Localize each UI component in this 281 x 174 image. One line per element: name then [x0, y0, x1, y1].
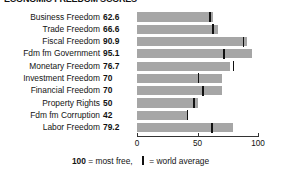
footnote-max-value: 100 — [72, 156, 86, 166]
chart-row: Financial Freedom 70 — [0, 85, 281, 97]
footnote-world-average-text: = world average — [149, 156, 209, 166]
bar-track — [137, 49, 281, 58]
category-label: Monetary Freedom — [29, 61, 100, 72]
value-bar — [137, 98, 198, 107]
value-bar — [137, 86, 222, 95]
world-average-marker — [198, 73, 200, 83]
chart-title: ECONOMIC FREEDOM SCORES — [4, 0, 244, 3]
value-bar — [137, 49, 252, 58]
chart-row: Property Rights 50 — [0, 97, 281, 109]
world-average-marker — [243, 37, 245, 47]
bar-track — [137, 74, 281, 83]
x-axis-tick — [258, 133, 259, 137]
value-label: 42 — [103, 110, 112, 121]
value-label: 50 — [103, 98, 112, 109]
value-bar — [137, 25, 218, 34]
value-bar — [137, 74, 222, 83]
value-label: 90.9 — [103, 36, 119, 47]
value-label: 95.1 — [103, 48, 119, 59]
economic-freedom-bar-chart: ECONOMIC FREEDOM SCORES Business Freedom… — [0, 0, 281, 174]
category-label: Business Freedom — [30, 12, 100, 23]
value-label: 70 — [103, 73, 112, 84]
world-average-marker — [202, 86, 204, 96]
value-label: 66.6 — [103, 24, 119, 35]
category-label: Fdm fm Corruption — [30, 110, 100, 121]
chart-row: Fdm fm Government 95.1 — [0, 48, 281, 60]
category-label: Trade Freedom — [43, 24, 100, 35]
category-label: Financial Freedom — [31, 85, 100, 96]
world-average-marker — [212, 24, 214, 34]
value-bar — [137, 111, 188, 120]
chart-row: Trade Freedom 66.6 — [0, 23, 281, 35]
world-average-legend-icon — [142, 156, 144, 165]
x-axis-tick — [198, 133, 199, 137]
world-average-marker — [211, 123, 213, 133]
chart-row: Monetary Freedom 76.7 — [0, 60, 281, 72]
value-label: 76.7 — [103, 61, 119, 72]
x-axis-tick-label: 50 — [193, 139, 202, 149]
world-average-marker — [187, 110, 189, 120]
chart-legend-footnote: 100 = most free, = world average — [0, 155, 281, 167]
category-label: Property Rights — [42, 98, 100, 109]
chart-row: Business Freedom 62.6 — [0, 11, 281, 23]
world-average-marker — [209, 12, 211, 22]
chart-row: Investment Freedom 70 — [0, 72, 281, 84]
x-axis-tick-label: 100 — [251, 139, 265, 149]
value-bar — [137, 12, 213, 21]
bar-track — [137, 86, 281, 95]
world-average-marker — [223, 49, 225, 59]
world-average-marker — [193, 98, 195, 108]
chart-row: Fiscal Freedom 90.9 — [0, 36, 281, 48]
category-label: Labor Freedom — [43, 122, 100, 133]
value-label: 79.2 — [103, 122, 119, 133]
value-bar — [137, 62, 230, 71]
bar-track — [137, 98, 281, 107]
chart-row: Fdm fm Corruption 42 — [0, 109, 281, 121]
x-axis-tick — [137, 133, 138, 137]
bar-track — [137, 123, 281, 132]
x-axis-tick-label: 0 — [135, 139, 140, 149]
bar-track — [137, 12, 281, 21]
world-average-marker — [233, 61, 235, 71]
bar-track — [137, 37, 281, 46]
footnote-most-free-text: = most free, — [88, 156, 132, 166]
value-label: 62.6 — [103, 12, 119, 23]
category-label: Fiscal Freedom — [42, 36, 100, 47]
chart-rows: Business Freedom 62.6 Trade Freedom 66.6… — [0, 11, 281, 134]
chart-row: Labor Freedom 79.2 — [0, 122, 281, 134]
category-label: Fdm fm Government — [23, 48, 100, 59]
category-label: Investment Freedom — [23, 73, 100, 84]
bar-track — [137, 25, 281, 34]
value-bar — [137, 123, 233, 132]
bar-track — [137, 62, 281, 71]
bar-track — [137, 111, 281, 120]
value-bar — [137, 37, 247, 46]
value-label: 70 — [103, 85, 112, 96]
